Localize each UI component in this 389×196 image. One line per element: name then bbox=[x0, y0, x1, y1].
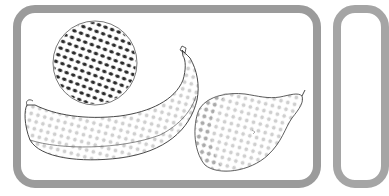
orange bbox=[53, 21, 137, 105]
pear bbox=[195, 90, 305, 171]
next-picture-frame-edge bbox=[333, 5, 389, 188]
